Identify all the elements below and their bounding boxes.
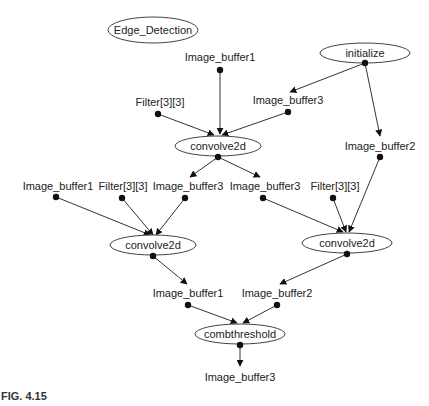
node-label: convolve2d: [319, 237, 375, 249]
edges: [56, 63, 380, 366]
node-convolve2d-right: convolve2d: [302, 233, 392, 253]
edge-left-image-buffer1-to-convolve-left: [56, 197, 150, 235]
dataflow-diagram: Edge_Detection initialize convolve2d con…: [0, 0, 429, 406]
port-label: Image_buffer3: [205, 371, 276, 383]
edge-image-buffer3-to-convolve-top: [222, 112, 288, 135]
port-label: Image_buffer2: [242, 287, 313, 299]
port-label: Filter[3][3]: [136, 96, 185, 108]
edge-image-buffer2-to-convolve-right: [349, 157, 380, 232]
port-label: Image_buffer1: [23, 180, 94, 192]
port-label: Filter[3][3]: [311, 180, 360, 192]
edge-right-image-buffer3-to-convolve-right: [263, 198, 343, 232]
node-convolve2d-left: convolve2d: [110, 235, 196, 255]
node-label: Edge_Detection: [114, 24, 192, 36]
edge-filter-to-convolve-top: [158, 114, 214, 135]
port-label: Filter[3][3]: [99, 180, 148, 192]
port-dots: [53, 60, 383, 348]
edge-left-image-buffer3-to-convolve-left: [156, 198, 185, 235]
figure-caption: FIG. 4.15: [1, 390, 47, 402]
edge-convolve-top-to-left-image-buffer3: [190, 157, 218, 177]
node-label: convolve2d: [125, 239, 181, 251]
port-label: Image_buffer3: [253, 94, 324, 106]
edge-initialize-to-image-buffer3: [290, 63, 365, 92]
port-label: Image_buffer2: [345, 140, 416, 152]
node-combthreshold: combthreshold: [195, 324, 285, 344]
node-label: initialize: [345, 47, 384, 59]
edge-convolve-top-to-right-image-buffer3: [218, 157, 260, 177]
port-label: Image_buffer3: [153, 180, 224, 192]
edge-image-buffer2-to-combthreshold: [243, 305, 277, 323]
node-label: convolve2d: [190, 140, 246, 152]
port-label: Image_buffer1: [185, 51, 256, 63]
node-label: combthreshold: [204, 328, 276, 340]
port-label: Image_buffer1: [153, 287, 224, 299]
edge-convolve-right-to-image-buffer2: [280, 254, 347, 284]
port-label: Image_buffer3: [230, 180, 301, 192]
node-edge-detection: Edge_Detection: [108, 17, 198, 43]
edge-initialize-to-image-buffer2: [365, 63, 380, 136]
node-convolve2d-top: convolve2d: [175, 136, 261, 156]
edge-convolve-left-to-image-buffer1: [153, 256, 187, 284]
edge-right-filter-to-convolve-right: [333, 198, 346, 232]
edge-image-buffer1-to-combthreshold: [188, 305, 237, 323]
